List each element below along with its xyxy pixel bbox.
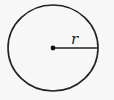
radius-label: r bbox=[71, 30, 79, 48]
circle-diagram: r bbox=[0, 0, 114, 100]
center-point bbox=[51, 46, 56, 51]
